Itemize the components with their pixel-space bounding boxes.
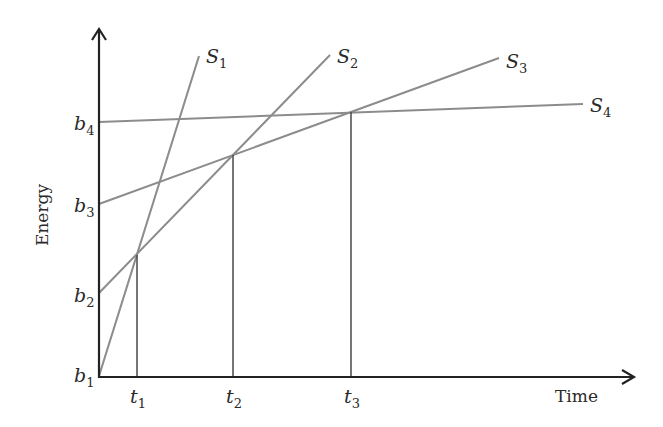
series-label-s1: S1 [206, 45, 227, 71]
series-label-s4: S4 [590, 94, 611, 120]
x-tick-t1: t1 [130, 385, 146, 411]
series-label-s2: S2 [337, 45, 358, 71]
y-tick-b4: b4 [74, 112, 94, 138]
x-tick-t2: t2 [226, 385, 242, 411]
line-s3 [99, 58, 499, 204]
series-label-s3: S3 [506, 50, 527, 76]
line-s4 [99, 104, 583, 122]
energy-time-diagram: b4 b3 b2 b1 t1 t2 t3 S1 S2 S3 S4 Time En… [0, 0, 663, 427]
y-tick-b3: b3 [74, 194, 94, 220]
y-tick-b2: b2 [74, 284, 94, 310]
x-axis-title: Time [555, 386, 598, 406]
y-axis-title: Energy [32, 184, 52, 246]
line-s2 [99, 55, 330, 293]
y-tick-b1: b1 [74, 364, 94, 390]
x-tick-t3: t3 [344, 385, 360, 411]
line-s1 [99, 56, 199, 376]
